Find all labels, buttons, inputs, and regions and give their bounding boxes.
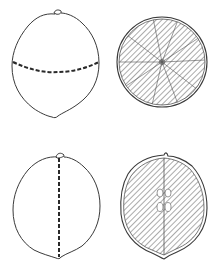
core — [159, 59, 165, 65]
stem-icon — [54, 10, 61, 14]
longitudinal-section — [121, 153, 207, 259]
fruit-outline — [13, 155, 100, 259]
citrus-section-diagram — [0, 0, 218, 268]
whole-fruit-vertical-cut — [13, 153, 100, 258]
transverse-section — [117, 17, 207, 107]
diagram-svg — [0, 0, 218, 268]
whole-fruit-horizontal-cut — [12, 10, 99, 118]
fruit-outline — [12, 11, 99, 118]
